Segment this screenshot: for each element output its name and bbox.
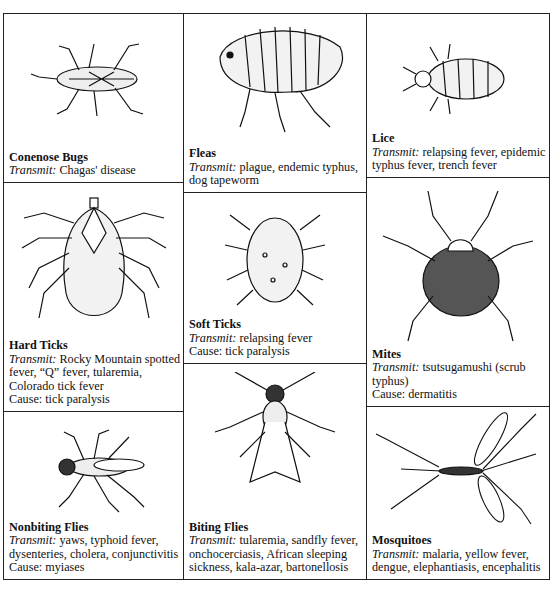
arthropod-name: Conenose Bugs xyxy=(9,151,180,165)
transmit-diseases: Chagas' disease xyxy=(59,163,135,177)
cause-label: Cause: xyxy=(372,387,405,401)
caption-mites: Mites Transmit: tsutsugamushi (scrub typ… xyxy=(372,348,546,402)
caption-fleas: Fleas Transmit: plague, endemic typhus, … xyxy=(189,147,363,188)
cause-label: Cause: xyxy=(189,344,222,358)
cause-condition: dermatitis xyxy=(408,387,457,401)
caption-hard-ticks: Hard Ticks Transmit: Rocky Mountain spot… xyxy=(9,339,180,407)
caption-conenose-bugs: Conenose Bugs Transmit: Chagas' disease xyxy=(9,151,180,178)
cell-soft-ticks: Soft Ticks Transmit: relapsing fever Cau… xyxy=(183,192,367,364)
transmit-diseases: relapsing fever xyxy=(239,331,312,345)
arthropod-name: Mites xyxy=(372,348,546,362)
arthropod-name: Hard Ticks xyxy=(9,339,180,353)
cell-biting-flies: Biting Flies Transmit: tularemia, sandfl… xyxy=(183,363,367,580)
cell-nonbiting-flies: Nonbiting Flies Transmit: yaws, typhoid … xyxy=(3,411,184,580)
cell-lice: Lice Transmit: relapsing fever, epidemic… xyxy=(366,13,550,178)
caption-lice: Lice Transmit: relapsing fever, epidemic… xyxy=(372,132,546,173)
transmit-label: Transmit: xyxy=(9,352,56,366)
transmit-label: Transmit: xyxy=(189,331,236,345)
transmit-label: Transmit: xyxy=(189,533,236,547)
cause-label: Cause: xyxy=(9,560,42,574)
nonbiting-fly-illustration xyxy=(4,422,183,522)
cause-condition: tick paralysis xyxy=(45,392,110,406)
biting-fly-illustration xyxy=(184,372,366,502)
cell-mosquitoes: Mosquitoes Transmit: malaria, yellow fev… xyxy=(366,406,550,580)
transmit-label: Transmit: xyxy=(372,145,419,159)
caption-soft-ticks: Soft Ticks Transmit: relapsing fever Cau… xyxy=(189,318,363,359)
caption-nonbiting-flies: Nonbiting Flies Transmit: yaws, typhoid … xyxy=(9,521,180,575)
soft-tick-illustration xyxy=(184,205,366,315)
caption-mosquitoes: Mosquitoes Transmit: malaria, yellow fev… xyxy=(372,534,546,575)
louse-illustration xyxy=(367,39,549,119)
flea-illustration xyxy=(184,17,366,137)
cause-label: Cause: xyxy=(9,392,42,406)
cause-condition: myiases xyxy=(45,560,84,574)
transmit-label: Transmit: xyxy=(372,547,419,561)
transmit-label: Transmit: xyxy=(9,533,56,547)
arthropod-name: Lice xyxy=(372,132,546,146)
arthropod-name: Mosquitoes xyxy=(372,534,546,548)
hard-tick-illustration xyxy=(4,193,183,343)
caption-biting-flies: Biting Flies Transmit: tularemia, sandfl… xyxy=(189,521,363,575)
cell-fleas: Fleas Transmit: plague, endemic typhus, … xyxy=(183,13,367,193)
transmit-label: Transmit: xyxy=(9,163,56,177)
arthropod-name: Nonbiting Flies xyxy=(9,521,180,535)
transmit-label: Transmit: xyxy=(372,360,419,374)
cell-mites: Mites Transmit: tsutsugamushi (scrub typ… xyxy=(366,177,550,407)
transmit-label: Transmit: xyxy=(189,160,236,174)
arthropod-name: Fleas xyxy=(189,147,363,161)
mosquito-illustration xyxy=(367,409,549,529)
cell-hard-ticks: Hard Ticks Transmit: Rocky Mountain spot… xyxy=(3,182,184,412)
cause-condition: tick paralysis xyxy=(225,344,290,358)
mite-illustration xyxy=(367,186,549,346)
cell-conenose-bugs: Conenose Bugs Transmit: Chagas' disease xyxy=(3,13,184,183)
arthropod-name: Soft Ticks xyxy=(189,318,363,332)
arthropod-name: Biting Flies xyxy=(189,521,363,535)
conenose-bug-illustration xyxy=(4,34,183,124)
